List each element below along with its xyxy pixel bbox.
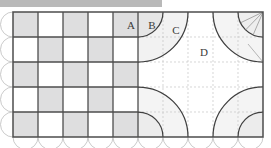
scallop-bottom-10 [238,137,263,148]
checker-cell [63,12,88,37]
geometry-figure: A B C D [0,0,271,148]
label-d: D [200,46,208,58]
checker-cell [88,37,113,62]
label-b: B [148,19,155,31]
scallop-bottom-5 [113,137,138,148]
scallop-left-3 [0,62,13,87]
label-a: A [127,19,135,31]
scallop-bottom-7 [163,137,188,148]
left-checkerboard [13,12,138,137]
scallop-bottom-8 [188,137,213,148]
scallop-bottom-1 [13,137,38,148]
scallop-left-5 [0,112,13,137]
scallop-left-2 [0,37,13,62]
label-c: C [172,24,179,36]
scallop-bottom-2 [38,137,63,148]
checker-cell [113,112,138,137]
checker-cell [63,62,88,87]
scallop-bottom-4 [88,137,113,148]
checker-cell [88,87,113,112]
checker-cell [113,62,138,87]
checker-cell [13,12,38,37]
scallop-left-4 [0,87,13,112]
scallop-bottom-6 [138,137,163,148]
scallop-left-1 [0,12,13,37]
checker-cell [38,87,63,112]
figure-canvas: A B C D [0,0,271,148]
scallop-bottom-3 [63,137,88,148]
checker-cell [63,112,88,137]
scallop-bottom-9 [213,137,238,148]
checker-cell [13,62,38,87]
checker-cell [13,112,38,137]
checker-cell [38,37,63,62]
